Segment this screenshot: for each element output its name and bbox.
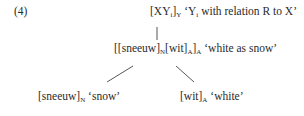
branch-right (176, 66, 194, 82)
branch-left (107, 66, 133, 82)
tree-branches (0, 0, 304, 116)
